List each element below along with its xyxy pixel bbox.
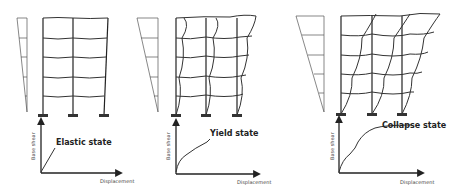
state-label-yield: Yield state — [210, 129, 258, 138]
frame-yield — [171, 15, 256, 117]
frame-elastic — [38, 18, 109, 118]
load-profile-yield — [137, 18, 158, 112]
state-label-elastic: Elastic state — [56, 138, 112, 147]
diagram-canvas — [0, 0, 456, 195]
x-axis-label-yield: Displacement — [237, 179, 271, 185]
x-axis-label-elastic: Displacement — [100, 178, 134, 184]
pushover-curve-elastic — [41, 121, 119, 173]
panel-yield — [137, 15, 257, 174]
y-axis-label-elastic: Base shear — [30, 132, 36, 160]
x-axis-label-collapse: Displacement — [400, 179, 434, 185]
state-label-collapse: Collapse state — [382, 121, 446, 130]
load-profile-elastic — [17, 18, 27, 112]
panel-collapse — [296, 13, 440, 173]
load-profile-collapse — [296, 16, 324, 112]
y-axis-label-yield: Base shear — [165, 132, 171, 160]
frame-collapse — [336, 13, 440, 116]
y-axis-label-collapse: Base shear — [329, 132, 335, 160]
